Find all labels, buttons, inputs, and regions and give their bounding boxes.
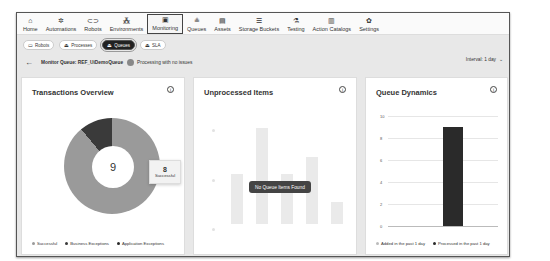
home-icon: ⌂ [28, 17, 32, 25]
legend-swatch [32, 242, 35, 245]
legend-swatch [376, 242, 379, 245]
chip-sla[interactable]: ⏏SLA [140, 40, 166, 50]
nav-robots[interactable]: ⊂⊃Robots [80, 12, 105, 34]
status-indicator-icon [127, 59, 134, 66]
queue-dynamics-card: Queue Dynamics i 10 8 6 4 2 0 Added in t… [365, 77, 508, 255]
legend-label: Successful [37, 241, 57, 246]
nav-automations[interactable]: ✲Automations [42, 12, 81, 34]
queues-icon: ⏏ [107, 42, 112, 48]
legend-label: Added in the past 1 day [381, 241, 425, 246]
queue-name: Monitor Queue: REF_UiDemoQueue [41, 60, 123, 65]
empty-state-message: No Queue Items Found [249, 181, 311, 193]
y-tick: 4 [380, 180, 382, 185]
interval-dropdown[interactable]: Interval: 1 day ⌄ [466, 57, 503, 62]
nav-monitoring[interactable]: ▣Monitoring [147, 14, 183, 34]
nav-label: Robots [84, 26, 101, 32]
nav-label: Storage Buckets [239, 26, 279, 32]
processes-icon: ⏏ [64, 42, 69, 48]
back-arrow-icon[interactable]: ← [25, 58, 33, 67]
nav-testing[interactable]: ⚗Testing [283, 12, 308, 34]
nav-environments[interactable]: ⁂Environments [106, 12, 148, 34]
chip-processes[interactable]: ⏏Processes [59, 40, 97, 50]
environments-icon: ⁂ [123, 17, 130, 25]
legend-added[interactable]: Added in the past 1 day [376, 241, 425, 246]
queue-status: Processing with no issues [137, 60, 192, 65]
chart-legend: Added in the past 1 day Processed in the… [376, 241, 490, 246]
y-tick: 8 [380, 136, 382, 141]
y-tick: 2 [380, 202, 382, 207]
tooltip-value: 8 [163, 166, 167, 173]
legend-label: Business Exceptions [70, 241, 109, 246]
legend-business-exceptions[interactable]: Business Exceptions [65, 241, 109, 246]
chip-queues[interactable]: ⏏Queues [102, 40, 135, 50]
legend-processed[interactable]: Processed in the past 1 day [433, 241, 490, 246]
chip-label: Processes [71, 43, 92, 48]
nav-assets[interactable]: ▤Assets [210, 12, 235, 34]
info-icon[interactable]: i [167, 86, 174, 93]
chip-label: Queues [114, 43, 130, 48]
transactions-overview-card: Transactions Overview i 9 8 Successful S… [21, 77, 185, 255]
y-tick: 10 [380, 114, 384, 119]
monitor-icon: ▭ [28, 42, 33, 48]
legend-swatch [65, 242, 68, 245]
nav-home[interactable]: ⌂Home [19, 12, 42, 34]
chip-robots[interactable]: ▭Robots [23, 40, 54, 50]
storage-buckets-icon: ☰ [256, 17, 262, 25]
action-catalogs-icon: ▥ [328, 17, 335, 25]
app-window: ⌂Home ✲Automations ⊂⊃Robots ⁂Environment… [16, 12, 510, 257]
legend-swatch [433, 242, 436, 245]
legend-application-exceptions[interactable]: Application Exceptions [117, 241, 164, 246]
info-icon[interactable]: i [339, 86, 346, 93]
gridline [388, 116, 498, 117]
chart-legend: Successful Business Exceptions Applicati… [32, 241, 164, 246]
chart-tooltip: 8 Successful [149, 160, 181, 184]
nav-queues[interactable]: ≗Queues [183, 12, 210, 34]
x-axis [388, 226, 498, 227]
legend-swatch [117, 242, 120, 245]
nav-settings[interactable]: ✿Settings [355, 12, 383, 34]
nav-label: Action Catalogs [313, 26, 352, 32]
chip-label: SLA [152, 43, 161, 48]
monitoring-icon: ▣ [162, 16, 169, 24]
placeholder-dot [212, 228, 215, 231]
nav-storage-buckets[interactable]: ☰Storage Buckets [235, 12, 283, 34]
legend-label: Processed in the past 1 day [438, 241, 490, 246]
breadcrumb: ← Monitor Queue: REF_UiDemoQueue Process… [17, 55, 509, 69]
placeholder-dot [212, 179, 215, 182]
placeholder-bar [331, 202, 343, 224]
monitoring-subnav: ▭Robots ⏏Processes ⏏Queues ⏏SLA [17, 36, 509, 54]
info-icon[interactable]: i [490, 86, 497, 93]
top-navigation: ⌂Home ✲Automations ⊂⊃Robots ⁂Environment… [17, 13, 509, 35]
nav-label: Assets [214, 26, 231, 32]
card-title: Unprocessed Items [204, 88, 273, 97]
testing-icon: ⚗ [293, 17, 299, 25]
y-tick: 6 [380, 158, 382, 163]
nav-label: Environments [110, 26, 144, 32]
card-title: Transactions Overview [32, 88, 114, 97]
legend-successful[interactable]: Successful [32, 241, 57, 246]
unprocessed-items-card: Unprocessed Items i No Queue Items Found [193, 77, 357, 255]
nav-label: Testing [287, 26, 304, 32]
processed-bar[interactable] [443, 127, 463, 226]
chevron-down-icon: ⌄ [499, 57, 503, 62]
nav-action-catalogs[interactable]: ▥Action Catalogs [309, 12, 356, 34]
nav-label: Queues [187, 26, 206, 32]
legend-label: Application Exceptions [122, 241, 164, 246]
card-title: Queue Dynamics [376, 88, 437, 97]
tooltip-label: Successful [155, 173, 175, 178]
nav-label: Monitoring [152, 25, 178, 31]
placeholder-bar [231, 174, 243, 224]
sla-icon: ⏏ [145, 42, 150, 48]
donut-total: 9 [92, 146, 134, 188]
chip-label: Robots [35, 43, 49, 48]
nav-label: Automations [46, 26, 77, 32]
queues-icon: ≗ [194, 17, 200, 25]
placeholder-dot [212, 129, 215, 132]
nav-label: Settings [359, 26, 379, 32]
interval-label: Interval: 1 day [466, 57, 496, 62]
automations-icon: ✲ [58, 17, 64, 25]
placeholder-bar [256, 128, 268, 224]
nav-label: Home [23, 26, 38, 32]
y-tick: 0 [380, 224, 382, 229]
assets-icon: ▤ [219, 17, 226, 25]
